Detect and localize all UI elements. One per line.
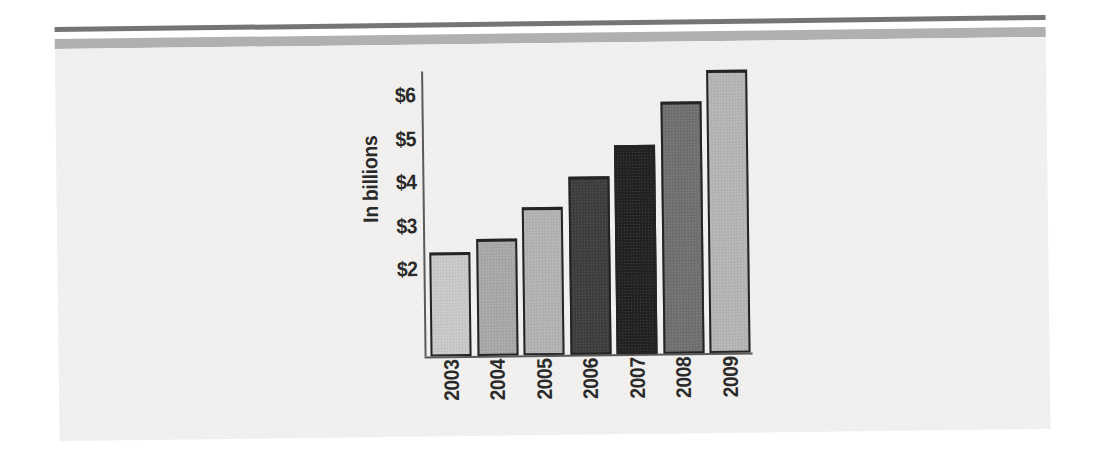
x-tick-label-text: 2008 <box>672 357 697 398</box>
bar-2004 <box>476 238 518 356</box>
bar-2006 <box>568 176 611 355</box>
bars-group <box>54 12 1045 24</box>
x-tick-label-text: 2003 <box>439 360 464 401</box>
bar-2005 <box>522 207 565 355</box>
bar-2008 <box>660 101 704 354</box>
x-tick-labels: 2003200420052006200720082009 <box>54 12 1045 24</box>
bar-2007 <box>614 145 658 354</box>
y-tick-label: $6 <box>347 83 415 108</box>
scanned-page: In billions $2$3$4$5$6 20032004200520062… <box>0 0 1107 456</box>
bar-2003 <box>429 252 471 357</box>
x-tick-label-text: 2005 <box>532 358 557 399</box>
x-tick-label-text: 2006 <box>579 358 604 399</box>
y-tick-labels: $2$3$4$5$6 <box>54 12 1045 24</box>
x-tick-label-text: 2007 <box>625 357 650 398</box>
y-axis-line <box>421 72 426 357</box>
x-tick-label-text: 2004 <box>486 359 511 400</box>
y-tick-label: $4 <box>348 170 416 195</box>
bar-chart: In billions $2$3$4$5$6 20032004200520062… <box>54 12 1050 441</box>
y-tick-label: $5 <box>348 127 416 152</box>
page-paper: In billions $2$3$4$5$6 20032004200520062… <box>54 12 1050 441</box>
y-tick-label: $2 <box>349 257 417 282</box>
bar-2009 <box>706 70 750 353</box>
y-tick-label: $3 <box>349 214 417 239</box>
x-tick-label-text: 2009 <box>718 356 743 397</box>
